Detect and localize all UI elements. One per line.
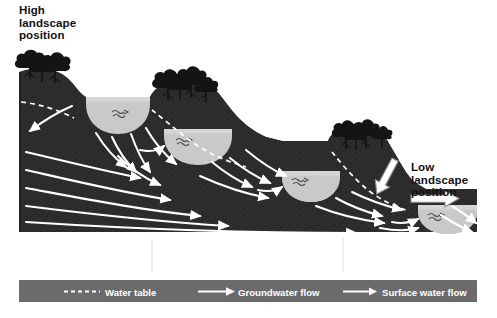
high-landscape-position-label: High landscape position xyxy=(19,4,76,42)
groundwater-lake-diagram: High landscape position Low landscape po… xyxy=(0,0,497,318)
category-label-groundwater-flowthrough-lakes: Groundwater Flowthrough Lakes xyxy=(156,237,340,262)
legend-label-surface-water-flow: Surface water flow xyxy=(382,287,467,298)
low-landscape-position-label: Low landscape position xyxy=(411,161,468,199)
ground-left-edge xyxy=(19,72,21,232)
legend-label-water-table: Water table xyxy=(105,287,156,298)
figure-root: High landscape position Low landscape po… xyxy=(0,0,497,318)
legend-label-groundwater-flow: Groundwater flow xyxy=(238,287,320,298)
category-label-drainage-lakes: Drainage Lakes xyxy=(348,237,474,262)
category-label-hydraulically-mounded-lakes: Hydraulically Mounded Lakes xyxy=(21,237,149,262)
diagram-canvas xyxy=(0,0,497,318)
